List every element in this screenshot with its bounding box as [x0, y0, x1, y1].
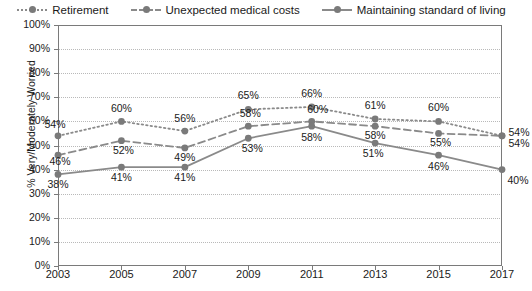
- legend-line-solid-icon: [322, 5, 352, 15]
- data-label: 52%: [113, 144, 134, 156]
- data-label: 61%: [365, 99, 386, 111]
- y-tick-30: 30%: [0, 187, 50, 199]
- data-label: 58%: [301, 131, 322, 143]
- data-point-marker: [245, 135, 252, 142]
- data-label: 41%: [111, 171, 132, 183]
- data-label: 66%: [301, 87, 322, 99]
- x-tickmark: [312, 266, 313, 270]
- data-point-marker: [181, 128, 188, 135]
- x-tickmark: [375, 266, 376, 270]
- data-point-marker: [372, 116, 379, 123]
- x-tickmark: [58, 266, 59, 270]
- data-point-marker: [55, 132, 62, 139]
- x-tickmark: [502, 266, 503, 270]
- legend-item-retirement: Retirement: [17, 4, 108, 16]
- data-point-marker: [499, 166, 506, 173]
- data-label: 38%: [47, 178, 68, 190]
- data-label: 58%: [365, 129, 386, 141]
- x-tickmark: [121, 266, 122, 270]
- data-label: 46%: [428, 160, 449, 172]
- data-label: 60%: [307, 103, 328, 115]
- data-label: 56%: [174, 112, 195, 124]
- x-tickmark: [439, 266, 440, 270]
- data-label: 58%: [240, 107, 261, 119]
- y-tick-70: 70%: [0, 90, 50, 102]
- data-label: 60%: [428, 101, 449, 113]
- legend-line-dotted-icon: [17, 5, 47, 15]
- chart-legend: Retirement Unexpected medical costs Main…: [0, 0, 523, 20]
- data-label: 46%: [49, 155, 70, 167]
- plot-area: 54%60%56%65%66%61%60%54%46%52%49%58%60%5…: [58, 25, 502, 266]
- data-point-marker: [118, 164, 125, 171]
- y-tick-20: 20%: [0, 211, 50, 223]
- data-point-marker: [55, 171, 62, 178]
- legend-line-dashed-icon: [131, 5, 161, 15]
- x-tickmark: [185, 266, 186, 270]
- figure-caption: [0, 284, 523, 291]
- y-tick-60: 60%: [0, 114, 50, 126]
- data-point-marker: [118, 118, 125, 125]
- data-point-marker: [499, 132, 506, 139]
- data-label: 54%: [508, 137, 529, 149]
- data-label: 49%: [174, 151, 195, 163]
- legend-label-unexpected-medical-costs: Unexpected medical costs: [166, 4, 300, 16]
- y-tick-80: 80%: [0, 66, 50, 78]
- y-tick-90: 90%: [0, 42, 50, 54]
- x-tickmark: [248, 266, 249, 270]
- legend-item-maintaining-standard-of-living: Maintaining standard of living: [322, 4, 506, 16]
- legend-item-unexpected-medical-costs: Unexpected medical costs: [131, 4, 300, 16]
- y-tick-40: 40%: [0, 163, 50, 175]
- data-label: 51%: [363, 147, 384, 159]
- data-point-marker: [308, 123, 315, 130]
- data-label: 65%: [238, 89, 259, 101]
- data-label: 53%: [242, 142, 263, 154]
- legend-label-retirement: Retirement: [52, 4, 108, 16]
- data-label: 54%: [44, 118, 65, 130]
- data-point-marker: [435, 118, 442, 125]
- data-label: 55%: [430, 136, 451, 148]
- y-tick-50: 50%: [0, 139, 50, 151]
- data-point-marker: [181, 164, 188, 171]
- data-point-marker: [245, 123, 252, 130]
- y-tick-100: 100%: [0, 18, 50, 30]
- data-label: 60%: [111, 102, 132, 114]
- y-tick-10: 10%: [0, 235, 50, 247]
- data-point-marker: [435, 152, 442, 159]
- data-label: 41%: [174, 171, 195, 183]
- legend-label-maintaining-standard-of-living: Maintaining standard of living: [357, 4, 506, 16]
- data-label: 40%: [507, 174, 528, 186]
